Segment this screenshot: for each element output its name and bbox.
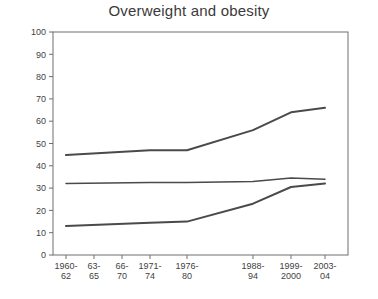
series-line	[66, 178, 325, 184]
y-tick-label: 20	[36, 206, 46, 216]
x-tick-label: 1971-	[138, 261, 161, 271]
y-tick-label: 60	[36, 116, 46, 126]
x-tick-label: 80	[182, 271, 192, 281]
x-tick-label: 74	[145, 271, 155, 281]
x-axis-ticks	[66, 255, 325, 259]
x-tick-label: 2003-	[313, 261, 336, 271]
x-tick-label: 65	[89, 271, 99, 281]
x-tick-label: 1999-	[279, 261, 302, 271]
y-tick-label: 50	[36, 139, 46, 149]
y-tick-label: 80	[36, 72, 46, 82]
y-tick-label: 40	[36, 161, 46, 171]
y-tick-label: 10	[36, 228, 46, 238]
y-tick-label: 30	[36, 183, 46, 193]
series-line	[66, 108, 325, 155]
x-tick-label: 1960-	[54, 261, 77, 271]
x-tick-label: 63-	[87, 261, 100, 271]
y-axis-tick-labels: 0102030405060708090100	[31, 27, 46, 260]
x-tick-label: 2000	[281, 271, 301, 281]
x-axis-tick-labels: 1960-6263-6566-701971-741976-801988-9419…	[54, 261, 336, 281]
x-tick-label: 1988-	[241, 261, 264, 271]
x-tick-label: 66-	[115, 261, 128, 271]
x-tick-label: 62	[61, 271, 71, 281]
y-tick-label: 100	[31, 27, 46, 37]
chart-plot: 0102030405060708090100 1960-6263-6566-70…	[0, 0, 378, 299]
y-tick-label: 90	[36, 50, 46, 60]
x-tick-label: 94	[248, 271, 258, 281]
y-axis-title: Percent	[0, 0, 19, 2]
plot-frame	[53, 32, 348, 255]
y-axis-ticks	[49, 32, 53, 255]
chart-container: Overweight and obesity 01020304050607080…	[0, 0, 378, 299]
series-line	[66, 184, 325, 226]
y-tick-label: 70	[36, 94, 46, 104]
y-tick-label: 0	[41, 250, 46, 260]
x-tick-label: 70	[117, 271, 127, 281]
data-series-lines	[66, 108, 325, 226]
x-tick-label: 1976-	[175, 261, 198, 271]
x-tick-label: 04	[320, 271, 330, 281]
